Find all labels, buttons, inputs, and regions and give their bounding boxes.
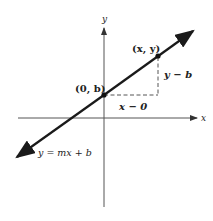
y-axis-label: y [101,14,108,24]
run-label: x − 0 [118,101,147,112]
line-y-mx-b [104,31,193,95]
rise-label: y − b [163,69,192,80]
general-point-label: (x, y) [132,43,160,55]
x-axis-label: x [201,113,206,123]
general-point [155,53,160,58]
intercept-point-label: (0, b) [75,83,105,95]
equation-label: y = mx + b [37,147,92,158]
slope-intercept-diagram: y x (x, y) (0, b) y − b x − 0 y = mx + b [0,0,213,221]
